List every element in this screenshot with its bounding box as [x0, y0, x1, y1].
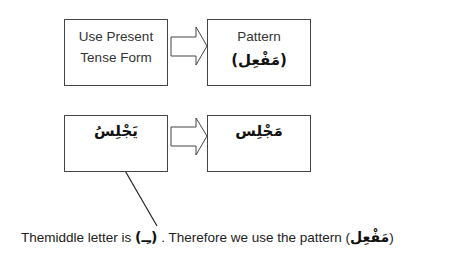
caption-letter: (ـِـ)	[135, 229, 157, 245]
caption-part3: )	[389, 230, 394, 245]
present-tense-line2: Tense Form	[65, 47, 167, 68]
caption-pattern: مَفْعِل	[350, 229, 389, 245]
explanation-caption: Themiddle letter is (ـِـ) . Therefore we…	[21, 229, 394, 245]
pattern-arabic: (مَفْعِل)	[208, 51, 310, 69]
verb-arabic: يَجْلِسُ	[65, 122, 167, 140]
present-tense-box: Use Present Tense Form	[64, 19, 168, 86]
pattern-label: Pattern	[208, 26, 310, 47]
caption-part1: Themiddle letter is	[21, 230, 135, 245]
block-arrow-row2	[171, 118, 207, 155]
pattern-box: Pattern (مَفْعِل)	[207, 19, 311, 86]
block-arrow-row1	[171, 27, 207, 65]
result-box: مَجْلِس	[207, 115, 311, 172]
verb-box: يَجْلِسُ	[64, 115, 168, 172]
result-arabic: مَجْلِس	[208, 122, 310, 140]
caption-part2: . Therefore we use the pattern (	[157, 230, 350, 245]
present-tense-line1: Use Present	[65, 26, 167, 47]
